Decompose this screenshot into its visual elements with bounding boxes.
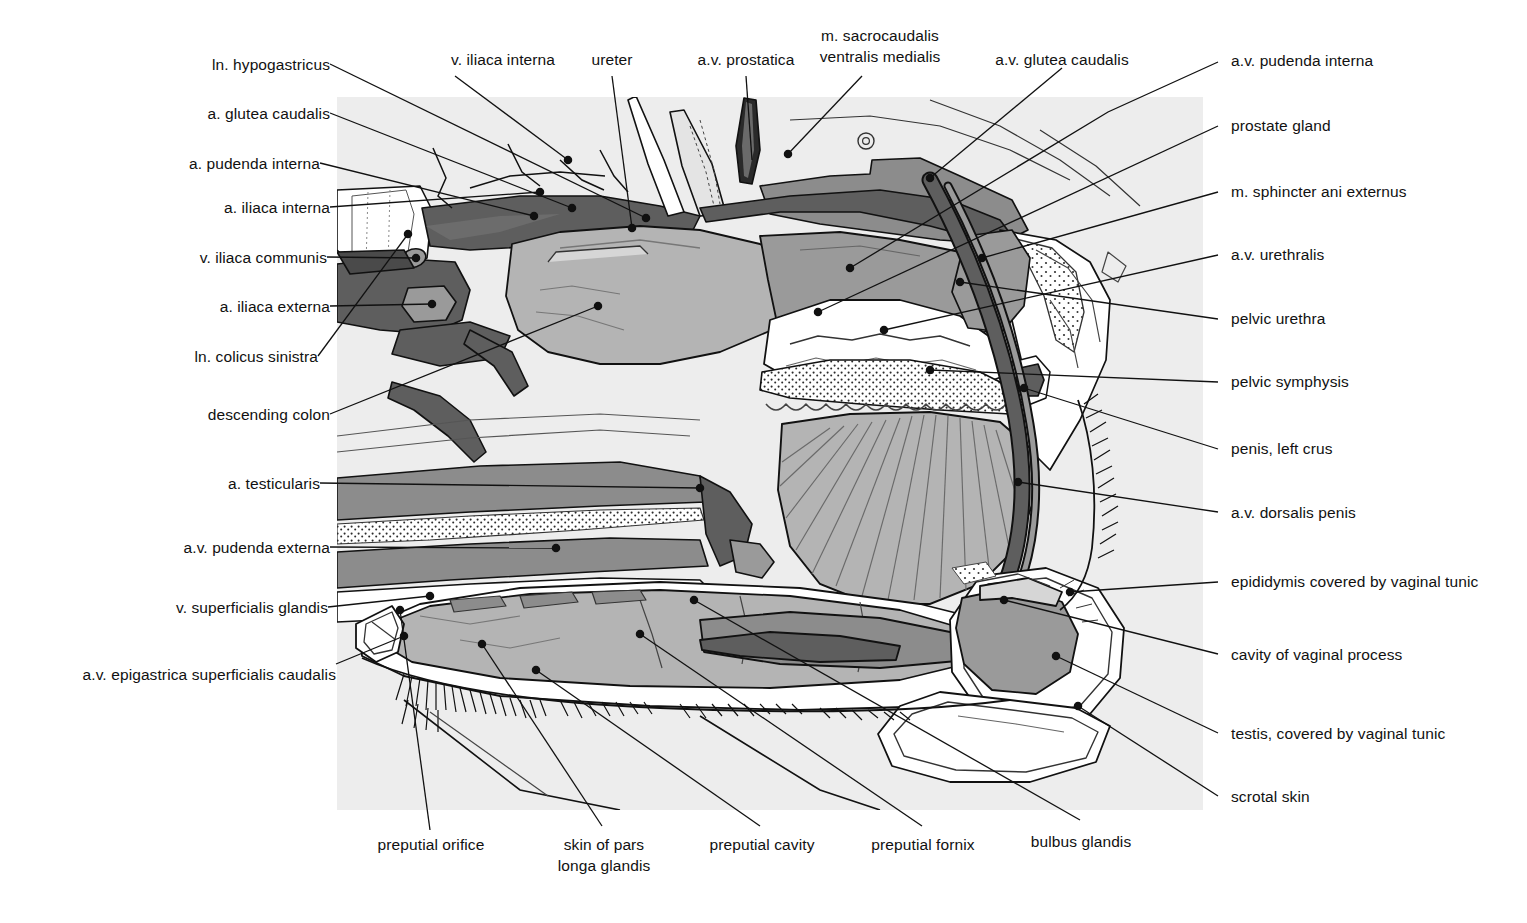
label-pelvic-symphysis: pelvic symphysis [1231,372,1349,393]
label-cavity-of-vaginal-process: cavity of vaginal process [1231,645,1402,666]
label-preputial-cavity: preputial cavity [684,835,840,856]
label-av-glutea-caudalis: a.v. glutea caudalis [958,50,1166,71]
figure-canvas: ln. hypogastricus a. glutea caudalis a. … [0,0,1527,923]
label-bulbus-glandis: bulbus glandis [1006,832,1156,853]
label-a-pudenda-interna: a. pudenda interna [189,154,320,175]
label-ln-colicus-sinistra: ln. colicus sinistra [195,347,318,368]
label-testis-covered-by-vaginal-tunic: testis, covered by vaginal tunic [1231,724,1445,745]
label-skin-of-pars-longa-glandis: skin of parslonga glandis [534,835,674,877]
label-preputial-fornix: preputial fornix [846,835,1000,856]
anatomical-illustration [0,0,1527,923]
label-descending-colon: descending colon [208,405,330,426]
label-ln-hypogastricus: ln. hypogastricus [212,55,330,76]
label-av-urethralis: a.v. urethralis [1231,245,1324,266]
label-a-glutea-caudalis: a. glutea caudalis [208,104,330,125]
label-av-epigastrica-superficialis-caudalis: a.v. epigastrica superficialis caudalis [83,665,336,686]
label-v-superficialis-glandis: v. superficialis glandis [176,598,328,619]
label-m-sphincter-ani-externus: m. sphincter ani externus [1231,182,1407,203]
label-pelvic-urethra: pelvic urethra [1231,309,1325,330]
label-av-dorsalis-penis: a.v. dorsalis penis [1231,503,1356,524]
label-prostate-gland: prostate gland [1231,116,1331,137]
label-preputial-orifice: preputial orifice [348,835,514,856]
label-penis-left-crus: penis, left crus [1231,439,1333,460]
label-av-pudenda-externa: a.v. pudenda externa [184,538,331,559]
label-scrotal-skin: scrotal skin [1231,787,1310,808]
label-epididymis-covered-by-vaginal-tunic: epididymis covered by vaginal tunic [1231,572,1478,593]
label-m-sacrocaudalis-ventralis-medialis: m. sacrocaudalisventralis medialis [770,26,990,68]
label-v-iliaca-communis: v. iliaca communis [200,248,327,269]
label-a-iliaca-externa: a. iliaca externa [220,297,330,318]
label-av-pudenda-interna-right: a.v. pudenda interna [1231,51,1373,72]
label-a-iliaca-interna: a. iliaca interna [224,198,330,219]
label-a-testicularis: a. testicularis [228,474,320,495]
